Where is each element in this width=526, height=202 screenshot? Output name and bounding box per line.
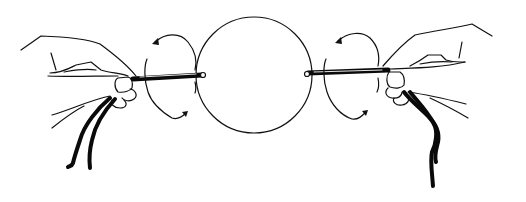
right-hand [383, 24, 492, 118]
circle-outline [196, 17, 312, 133]
left-rod [133, 73, 206, 80]
twisting-cord-illustration [0, 0, 526, 202]
illustration-canvas [0, 0, 526, 202]
right-rotation-arrows-icon [324, 33, 379, 119]
left-cord-ends [68, 98, 115, 168]
left-hand [21, 36, 136, 128]
right-rod [305, 70, 389, 77]
right-cord-ends [404, 92, 439, 186]
